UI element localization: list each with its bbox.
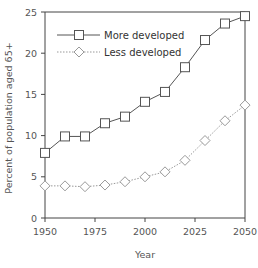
series-less-developed <box>40 100 250 192</box>
diamond-marker-icon <box>140 172 150 182</box>
square-marker-icon <box>101 119 110 128</box>
x-tick-label: 2000 <box>133 226 157 237</box>
legend-label: More developed <box>104 30 184 41</box>
square-marker-icon <box>181 63 190 72</box>
square-marker-icon <box>241 12 250 21</box>
diamond-marker-icon <box>180 155 190 165</box>
square-marker-icon <box>75 31 84 40</box>
diamond-marker-icon <box>74 47 84 57</box>
square-marker-icon <box>121 112 130 121</box>
x-tick-label: 1975 <box>83 226 107 237</box>
y-tick-label: 0 <box>31 213 37 224</box>
legend-item: Less developed <box>57 47 181 58</box>
diamond-marker-icon <box>120 177 130 187</box>
square-marker-icon <box>201 36 210 45</box>
chart: 051015202519501975200020252050 More deve… <box>0 0 258 268</box>
legend-label: Less developed <box>104 47 181 58</box>
legend-item: More developed <box>57 30 184 41</box>
x-tick-label: 2025 <box>183 226 207 237</box>
x-axis-title: Year <box>134 249 155 260</box>
square-marker-icon <box>141 97 150 106</box>
y-tick-label: 10 <box>25 130 37 141</box>
legend: More developedLess developed <box>57 30 184 58</box>
diamond-marker-icon <box>100 180 110 190</box>
square-marker-icon <box>221 19 230 28</box>
square-marker-icon <box>81 132 90 141</box>
x-tick-label: 1950 <box>33 226 57 237</box>
y-axis-title: Percent of population aged 65+ <box>3 42 14 193</box>
y-tick-label: 15 <box>25 89 37 100</box>
square-marker-icon <box>161 87 170 96</box>
diamond-marker-icon <box>60 181 70 191</box>
diamond-marker-icon <box>40 181 50 191</box>
diamond-marker-icon <box>160 167 170 177</box>
square-marker-icon <box>41 148 50 157</box>
square-marker-icon <box>61 132 70 141</box>
line-chart: 051015202519501975200020252050 More deve… <box>0 0 258 268</box>
y-tick-label: 25 <box>25 7 37 18</box>
y-tick-label: 5 <box>31 171 37 182</box>
y-tick-label: 20 <box>25 48 37 59</box>
diamond-marker-icon <box>80 182 90 192</box>
diamond-marker-icon <box>240 100 250 110</box>
x-tick-label: 2050 <box>233 226 257 237</box>
